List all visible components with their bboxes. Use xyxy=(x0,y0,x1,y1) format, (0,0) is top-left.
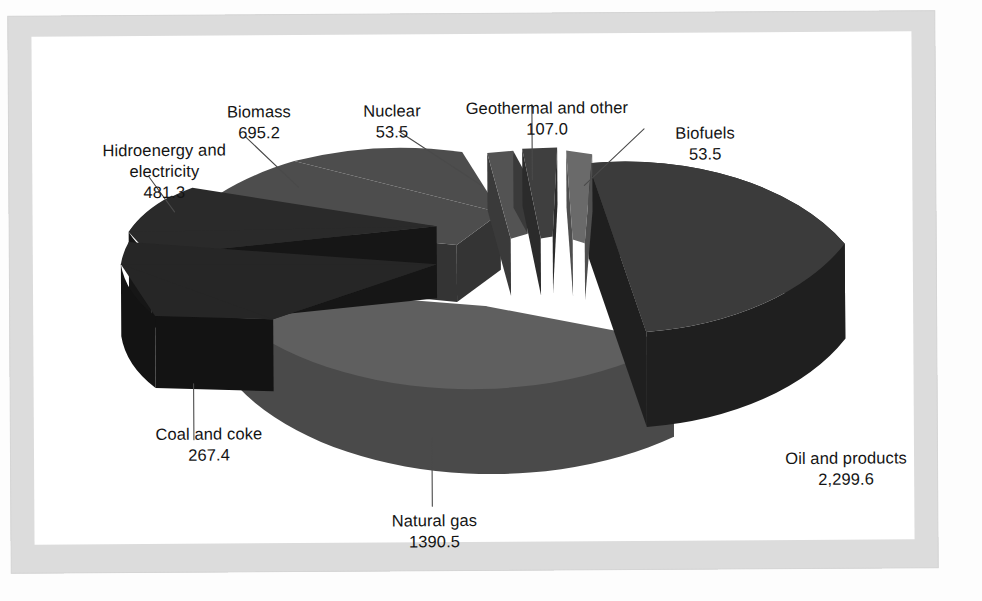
slice-label-hidroenergy-line2: electricity xyxy=(59,160,269,182)
slice-label-oil-and-products: Oil and products 2,299.6 xyxy=(741,447,951,491)
slice-label-coal-and-coke: Coal and coke 267.4 xyxy=(119,423,299,466)
chart-page: Hidroenergy and electricity 481.3 Biomas… xyxy=(0,0,982,601)
slice-label-nuclear: Nuclear 53.5 xyxy=(337,100,447,143)
slice-label-biofuels: Biofuels 53.5 xyxy=(640,122,770,165)
slice-label-natural-gas-name: Natural gas xyxy=(392,511,478,530)
slice-label-oil-name: Oil and products xyxy=(785,448,907,467)
slice-label-biomass: Biomass 695.2 xyxy=(184,101,334,144)
pie-slice-geothermal-and-other[interactable] xyxy=(522,147,558,295)
slice-value-biomass: 695.2 xyxy=(184,122,334,144)
pie-chart-plot-area: Hidroenergy and electricity 481.3 Biomas… xyxy=(31,31,914,544)
slice-label-biofuels-name: Biofuels xyxy=(675,123,735,141)
slice-value-biofuels: 53.5 xyxy=(640,143,770,165)
slice-value-oil: 2,299.6 xyxy=(741,468,951,490)
slice-label-biomass-name: Biomass xyxy=(227,102,291,120)
slice-value-natural-gas: 1390.5 xyxy=(349,531,519,553)
slice-label-nuclear-name: Nuclear xyxy=(363,101,421,119)
slice-value-coal: 267.4 xyxy=(119,444,299,466)
slice-value-hidroenergy: 481.3 xyxy=(59,181,269,203)
slice-label-geothermal-name: Geothermal and other xyxy=(466,98,629,117)
slice-label-natural-gas: Natural gas 1390.5 xyxy=(349,510,519,553)
slice-value-nuclear: 53.5 xyxy=(337,121,447,143)
slice-label-coal-name: Coal and coke xyxy=(155,424,262,443)
pie-slice-biofuels[interactable] xyxy=(566,150,593,300)
slice-value-geothermal: 107.0 xyxy=(432,118,662,141)
slice-label-geothermal: Geothermal and other 107.0 xyxy=(432,97,662,141)
slice-label-hidroenergy: Hidroenergy and electricity 481.3 xyxy=(59,139,269,204)
